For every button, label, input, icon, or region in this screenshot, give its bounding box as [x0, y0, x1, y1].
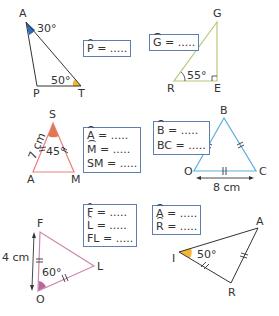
dimension-arrow [32, 235, 34, 288]
vertex-o: O [36, 293, 45, 306]
vertex-e: E [214, 82, 221, 95]
vertex-r: R [167, 82, 175, 95]
answer-box-boc: B = ..... BC = ..... [153, 121, 210, 155]
answer-row-angle-p[interactable]: P = ..... [87, 42, 127, 55]
vertex-t: T [77, 87, 85, 100]
answer-row-angle-r[interactable]: R = ..... [156, 220, 197, 233]
angle-i-value: 50° [197, 248, 217, 261]
vertex-r: R [228, 286, 236, 299]
vertex-c: C [259, 165, 267, 178]
vertex-a: A [27, 173, 35, 186]
side-oc-length: 8 cm [213, 181, 240, 194]
vertex-g: G [213, 7, 222, 20]
vertex-o: O [184, 165, 193, 178]
angle-r-value: 55° [187, 69, 207, 82]
answer-row-length-sm[interactable]: SM = ..... [87, 157, 137, 171]
answer-row-angle-f[interactable]: F = ..... [87, 206, 133, 219]
right-angle-marker [212, 76, 217, 81]
answer-row-length-bc[interactable]: BC = ..... [157, 138, 206, 153]
answer-box-sam: A = ..... M = ..... SM = ..... [83, 127, 141, 173]
vertex-f: F [37, 217, 43, 230]
vertex-a: A [19, 7, 27, 20]
answer-row-angle-g[interactable]: G = ..... [153, 36, 195, 49]
answer-row-angle-m[interactable]: M = ..... [87, 143, 137, 157]
side-fo-length: 4 cm [2, 251, 29, 264]
triangle-apt: A P T 30° 50° [19, 7, 85, 100]
vertex-m: M [71, 173, 81, 186]
triangle-sam: S A M 45° 7 cm [26, 108, 81, 186]
triangle-gre: G R E 55° [167, 7, 222, 95]
answer-row-length-fl[interactable]: FL = ..... [87, 232, 133, 245]
vertex-l: L [97, 260, 104, 273]
answer-box-apt: P = ..... [83, 40, 131, 57]
vertex-b: B [220, 104, 228, 117]
answer-box-iar: A = ..... R = ..... [152, 205, 201, 235]
vertex-s: S [49, 108, 56, 121]
angle-s-value: 45° [46, 145, 66, 158]
angle-t-value: 50° [51, 74, 71, 87]
vertex-p: P [33, 87, 40, 100]
angle-a-value: 30° [37, 22, 57, 35]
vertex-a: A [256, 215, 264, 228]
answer-row-angle-l[interactable]: L = ..... [87, 219, 133, 232]
angle-o-value: 60° [42, 266, 62, 279]
answer-box-gre: G = ..... [149, 34, 199, 51]
answer-box-fol: F = ..... L = ..... FL = ..... [83, 204, 137, 247]
vertex-i: I [172, 252, 175, 265]
answer-row-angle-b[interactable]: B = ..... [157, 123, 206, 138]
